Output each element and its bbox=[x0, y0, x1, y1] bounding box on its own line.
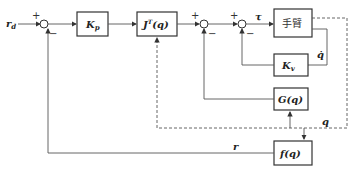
signal-r: r bbox=[233, 141, 239, 152]
svg-text:+: + bbox=[191, 10, 199, 21]
block-arm-label: 手臂 bbox=[282, 17, 302, 29]
signal-tau: τ bbox=[255, 11, 262, 22]
block-g-label: G(q) bbox=[278, 94, 303, 105]
signal-q: q bbox=[322, 116, 329, 127]
svg-text:−: − bbox=[208, 28, 216, 39]
sum1-minus: − bbox=[49, 28, 57, 39]
block-diagram: rd + − Kp JT(q) + − + − τ 手臂 q̇ Kv G(q) … bbox=[0, 0, 351, 170]
sum1-plus: + bbox=[32, 10, 40, 21]
summing-junction-3 bbox=[238, 20, 246, 28]
block-f-label: f(q) bbox=[279, 148, 301, 159]
input-label-rd: rd bbox=[6, 18, 16, 31]
summing-junction-1 bbox=[40, 20, 48, 28]
summing-junction-2 bbox=[200, 20, 208, 28]
block-jt-label: JT(q) bbox=[141, 18, 169, 30]
svg-text:−: − bbox=[246, 28, 254, 39]
svg-text:+: + bbox=[230, 10, 238, 21]
signal-qdot: q̇ bbox=[317, 49, 324, 60]
